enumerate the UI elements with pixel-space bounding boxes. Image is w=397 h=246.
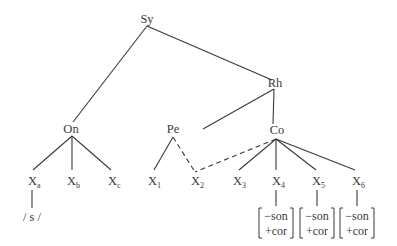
right-bracket xyxy=(371,208,374,238)
left-bracket xyxy=(340,208,343,238)
node-coda: Co xyxy=(270,123,285,137)
left-bracket xyxy=(300,208,303,238)
segment-s: / s / xyxy=(23,210,42,224)
edge-co-x6 xyxy=(276,139,355,170)
edge-sy-rh xyxy=(147,26,272,80)
slot-x5: X5 xyxy=(312,174,325,190)
edge-on-xc xyxy=(72,136,111,170)
edge-on-xa xyxy=(33,136,72,170)
node-onset: On xyxy=(63,122,79,136)
edge-co-x3 xyxy=(239,139,276,170)
feature-son: −son xyxy=(345,209,368,223)
right-bracket xyxy=(331,208,334,238)
feature-matrix-x6: −son +cor xyxy=(340,208,374,238)
slot-xa: Xa xyxy=(28,174,41,190)
edge-rh-co xyxy=(273,89,274,124)
left-bracket xyxy=(259,208,262,238)
feature-matrix-x4: −son +cor xyxy=(259,208,293,238)
syllable-tree-diagram: Sy Rh On Pe Co Xa Xb Xc X1 X2 X3 X4 X5 X… xyxy=(0,0,397,246)
node-syllable: Sy xyxy=(140,12,154,26)
slot-x3: X3 xyxy=(233,174,246,190)
edge-pe-x2-dashed xyxy=(173,137,195,172)
feature-cor: +cor xyxy=(306,224,328,238)
feature-cor: +cor xyxy=(346,224,368,238)
feature-cor: +cor xyxy=(265,224,287,238)
node-rhyme: Rh xyxy=(268,76,283,90)
slot-xb: Xb xyxy=(67,174,80,190)
edge-pe-x1 xyxy=(154,137,173,170)
feature-son: −son xyxy=(305,209,328,223)
edge-co-x5 xyxy=(276,139,316,170)
slot-xc: Xc xyxy=(108,174,121,190)
slot-x2: X2 xyxy=(191,174,204,190)
slot-x1: X1 xyxy=(148,174,161,190)
edge-sy-on xyxy=(73,26,147,122)
edge-co-x2-dashed xyxy=(195,139,276,172)
right-bracket xyxy=(290,208,293,238)
slot-x4: X4 xyxy=(272,174,285,190)
feature-matrix-x5: −son +cor xyxy=(300,208,334,238)
edge-rh-pe xyxy=(203,89,274,129)
slot-x6: X6 xyxy=(352,174,365,190)
feature-son: −son xyxy=(264,209,287,223)
node-peak: Pe xyxy=(167,122,180,136)
